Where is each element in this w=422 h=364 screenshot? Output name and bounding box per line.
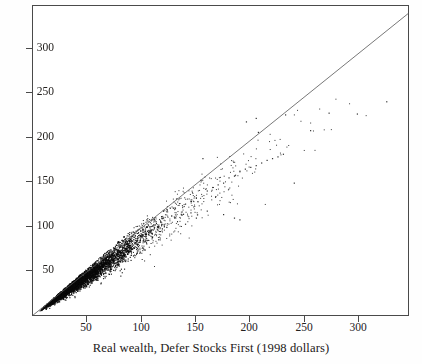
xtick-label-x3: 200 — [229, 322, 269, 334]
scatter-plot-figure: 50 100 150 200 250 300 50 100 150 200 25… — [0, 0, 422, 364]
xtick-label-x2: 150 — [175, 322, 215, 334]
ytick-label-y4: 250 — [22, 86, 54, 98]
scatter-points-canvas — [32, 5, 409, 316]
plot-area — [32, 5, 409, 316]
xtick-label-x4: 250 — [284, 322, 324, 334]
ytick-label-y1: 100 — [22, 220, 54, 232]
ytick-label-y5: 300 — [22, 42, 54, 54]
x-axis-label: Real wealth, Defer Stocks First (1998 do… — [0, 341, 422, 355]
ytick-label-y0: 50 — [22, 264, 54, 276]
xtick-label-x5: 300 — [338, 322, 378, 334]
xtick-label-x1: 100 — [121, 322, 161, 334]
ytick-label-y2: 150 — [22, 175, 54, 187]
xtick-label-x0: 50 — [66, 322, 106, 334]
ytick-label-y3: 200 — [22, 131, 54, 143]
